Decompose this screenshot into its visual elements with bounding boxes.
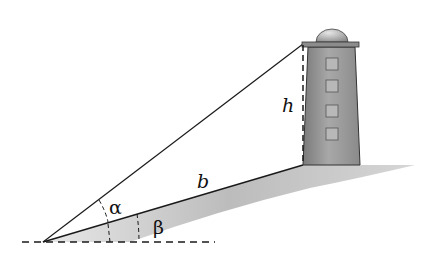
- hillside-ground: [43, 165, 415, 242]
- lighthouse-window: [326, 58, 338, 70]
- label-h: h: [282, 94, 294, 116]
- label-alpha: α: [109, 196, 122, 218]
- label-b: b: [197, 170, 209, 192]
- lighthouse-diagram: h b α β: [0, 0, 430, 257]
- slope-line-b: [43, 165, 303, 242]
- lighthouse: [302, 29, 360, 165]
- label-beta: β: [153, 216, 164, 238]
- angle-alpha-arc: [99, 200, 108, 222]
- lighthouse-window: [326, 128, 338, 140]
- lighthouse-window: [326, 105, 338, 117]
- lighthouse-dome: [316, 29, 348, 42]
- lighthouse-window: [326, 80, 338, 92]
- lighthouse-cap: [302, 42, 359, 47]
